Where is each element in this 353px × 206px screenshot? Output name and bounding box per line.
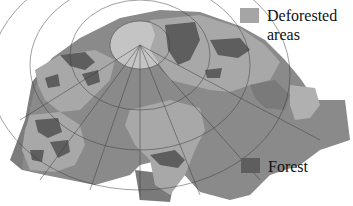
legend-label-line2: areas (267, 25, 337, 44)
legend-item-forest: Forest (241, 157, 308, 176)
legend-item-deforested: Deforested areas (240, 6, 337, 44)
deforested-swatch (240, 8, 259, 23)
legend-label-line1: Deforested (267, 6, 337, 25)
legend-label-deforested: Deforested areas (267, 6, 337, 44)
legend-label-forest: Forest (268, 157, 308, 176)
forest-swatch (241, 158, 260, 173)
